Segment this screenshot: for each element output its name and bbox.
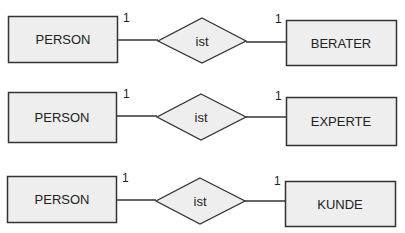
er-row-2: PERSON 1 ist 1 EXPERTE — [9, 87, 397, 146]
relationship-ist[interactable]: ist — [156, 178, 245, 224]
entity-person[interactable]: PERSON — [8, 177, 117, 223]
er-row-3: PERSON 1 ist 1 KUNDE — [8, 171, 396, 227]
cardinality-left: 1 — [122, 171, 129, 185]
cardinality-left: 1 — [123, 87, 130, 101]
relationship-label: ist — [194, 194, 207, 209]
cardinality-right: 1 — [274, 174, 281, 188]
cardinality-left: 1 — [123, 11, 130, 25]
entity-label: BERATER — [311, 36, 371, 51]
entity-label: PERSON — [36, 32, 91, 47]
entity-label: EXPERTE — [311, 114, 372, 129]
er-row-1: PERSON 1 ist 1 BERATER — [9, 11, 397, 66]
cardinality-right: 1 — [275, 12, 282, 26]
relationship-ist[interactable]: ist — [157, 94, 246, 140]
relationship-label: ist — [195, 110, 208, 125]
entity-person[interactable]: PERSON — [9, 93, 117, 143]
relationship-ist[interactable]: ist — [158, 18, 246, 63]
entity-berater[interactable]: BERATER — [287, 21, 397, 66]
entity-person[interactable]: PERSON — [9, 17, 118, 63]
entity-label: PERSON — [35, 192, 90, 207]
entity-label: PERSON — [35, 110, 90, 125]
relationship-label: ist — [196, 34, 209, 49]
entity-kunde[interactable]: KUNDE — [286, 182, 396, 227]
cardinality-right: 1 — [275, 89, 282, 103]
entity-label: KUNDE — [317, 197, 363, 212]
er-diagram: PERSON 1 ist 1 BERATER PERSON 1 ist 1 EX… — [0, 0, 405, 233]
entity-experte[interactable]: EXPERTE — [287, 98, 397, 146]
